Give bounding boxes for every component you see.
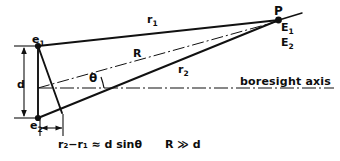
angle-label: θ: [89, 72, 97, 84]
path-difference-equation: r₂−r₁ ≈ d sinθ: [58, 139, 142, 150]
angle-arc: [101, 77, 104, 88]
baseline-dimension-arrow-bottom: [21, 110, 27, 117]
element-2-label: e2: [30, 120, 43, 131]
range-1-label: r1: [147, 14, 158, 25]
range-1-line: [38, 20, 279, 46]
element-1-label: e1: [32, 34, 45, 45]
boresight-axis-label: boresight axis: [240, 76, 331, 87]
range-2-label: r2: [178, 64, 189, 75]
path-difference-arrow-right: [56, 125, 63, 130]
field-2-label: E2: [281, 37, 294, 48]
range-2-line: [38, 20, 279, 118]
far-field-condition-equation: R ≫ d: [165, 139, 201, 150]
field-1-label: E1: [281, 22, 294, 33]
baseline-label: d: [17, 79, 25, 90]
range-mean-label: R: [133, 48, 141, 59]
interferometer-geometry-figure: e1 e2 P E1 E2 r1 R r2 d θ boresight axis…: [0, 0, 340, 161]
baseline-dimension-arrow-top: [21, 47, 27, 54]
target-point-label: P: [274, 5, 283, 17]
wavefront-segment: [38, 46, 62, 113]
